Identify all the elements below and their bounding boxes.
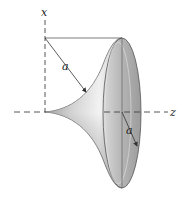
- tangent-length-label: a: [62, 60, 69, 73]
- z-axis-label: z: [169, 106, 176, 119]
- x-axis-label: x: [41, 6, 48, 19]
- pseudosphere-diagram: x z a a: [0, 0, 186, 201]
- rim-radius-label: a: [126, 124, 133, 137]
